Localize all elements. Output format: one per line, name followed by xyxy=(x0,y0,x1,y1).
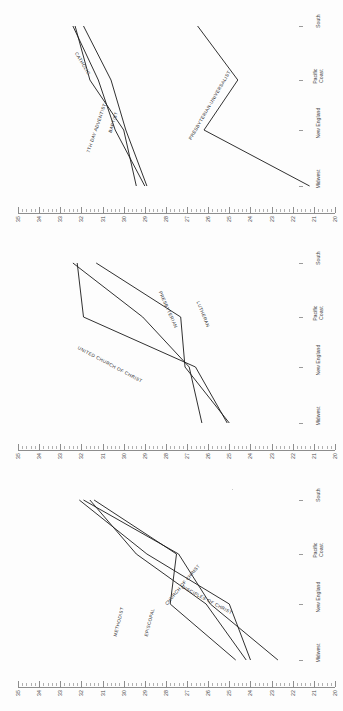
axis-tick-label: 31 xyxy=(100,216,106,222)
category-tick xyxy=(299,186,303,187)
axis-minor-tick xyxy=(52,446,53,449)
axis-tick xyxy=(208,444,209,450)
axis-minor-tick xyxy=(284,446,285,449)
axis-minor-tick xyxy=(289,209,290,212)
axis-minor-tick xyxy=(157,683,158,686)
axis-minor-tick xyxy=(119,209,120,212)
axis-minor-tick xyxy=(111,683,112,686)
series-line-7th-day-adventist xyxy=(73,26,145,186)
category-tick xyxy=(299,317,303,318)
category-tick xyxy=(299,604,303,605)
axis-minor-tick xyxy=(191,209,192,212)
axis-minor-tick xyxy=(200,683,201,686)
axis-minor-tick xyxy=(31,209,32,212)
panel-3-plot-area: METHODIST EPISCOPAL CHURCH OF CHRIST DIS… xyxy=(0,474,343,711)
axis-tick-label: 33 xyxy=(57,453,63,459)
panel-2-value-axis: 35343332313029282726252423222120 xyxy=(0,440,343,474)
axis-tick-label: 22 xyxy=(290,690,296,696)
axis-tick xyxy=(145,444,146,450)
axis-minor-tick xyxy=(73,683,74,686)
panel-2-category-axis: Midwest New England Pacific Coast South xyxy=(299,237,343,440)
category-tick xyxy=(299,660,303,661)
axis-minor-tick xyxy=(111,209,112,212)
axis-minor-tick xyxy=(217,683,218,686)
axis-minor-tick xyxy=(90,683,91,686)
axis-minor-tick xyxy=(136,446,137,449)
axis-tick xyxy=(293,681,294,687)
axis-tick xyxy=(166,681,167,687)
axis-minor-tick xyxy=(331,209,332,212)
axis-minor-tick xyxy=(149,683,150,686)
axis-minor-tick xyxy=(77,446,78,449)
axis-tick xyxy=(208,207,209,213)
axis-minor-tick xyxy=(301,209,302,212)
axis-minor-tick xyxy=(246,683,247,686)
category-tick xyxy=(299,263,303,264)
axis-minor-tick xyxy=(119,683,120,686)
axis-minor-tick xyxy=(90,446,91,449)
axis-minor-tick xyxy=(284,683,285,686)
axis-minor-tick xyxy=(94,209,95,212)
axis-tick-label: 26 xyxy=(205,690,211,696)
axis-minor-tick xyxy=(204,446,205,449)
axis-minor-tick xyxy=(162,209,163,212)
axis-minor-tick xyxy=(327,446,328,449)
axis-minor-tick xyxy=(128,683,129,686)
axis-tick xyxy=(39,444,40,450)
category-label-new-england: New England xyxy=(315,574,321,620)
axis-minor-tick xyxy=(310,446,311,449)
axis-tick-label: 35 xyxy=(15,690,21,696)
axis-minor-tick xyxy=(153,446,154,449)
axis-tick xyxy=(272,207,273,213)
axis-minor-tick xyxy=(119,446,120,449)
axis-minor-tick xyxy=(212,683,213,686)
axis-minor-tick xyxy=(238,683,239,686)
axis-tick-label: 26 xyxy=(205,216,211,222)
axis-minor-tick xyxy=(153,683,154,686)
axis-tick-label: 33 xyxy=(57,690,63,696)
axis-minor-tick xyxy=(310,209,311,212)
axis-minor-tick xyxy=(267,446,268,449)
axis-minor-tick xyxy=(43,209,44,212)
category-tick xyxy=(299,80,303,81)
axis-tick xyxy=(250,207,251,213)
series-line-baptist xyxy=(84,26,147,186)
axis-tick-label: 27 xyxy=(184,216,190,222)
axis-minor-tick xyxy=(69,209,70,212)
axis-minor-tick xyxy=(297,446,298,449)
category-tick xyxy=(299,26,303,27)
axis-minor-tick xyxy=(183,209,184,212)
axis-minor-tick xyxy=(225,209,226,212)
axis-tick xyxy=(124,207,125,213)
axis-tick xyxy=(60,207,61,213)
axis-minor-tick xyxy=(98,209,99,212)
axis-tick-label: 34 xyxy=(36,690,42,696)
axis-minor-tick xyxy=(52,209,53,212)
axis-minor-tick xyxy=(64,446,65,449)
axis-minor-tick xyxy=(246,446,247,449)
axis-minor-tick xyxy=(86,683,87,686)
axis-minor-tick xyxy=(221,683,222,686)
axis-minor-tick xyxy=(331,683,332,686)
category-label-south: South xyxy=(315,0,321,44)
axis-minor-tick xyxy=(153,209,154,212)
axis-tick xyxy=(293,444,294,450)
axis-minor-tick xyxy=(136,683,137,686)
panel-3-value-axis: 35343332313029282726252423222120 xyxy=(0,677,343,711)
axis-tick xyxy=(187,444,188,450)
category-label-new-england: New England xyxy=(315,337,321,383)
axis-minor-tick xyxy=(196,209,197,212)
axis-minor-tick xyxy=(174,209,175,212)
axis-tick xyxy=(335,681,336,687)
axis-minor-tick xyxy=(183,683,184,686)
category-tick xyxy=(299,554,303,555)
axis-tick xyxy=(145,681,146,687)
series-line-presbyterian-universalist xyxy=(198,26,310,186)
axis-tick-label: 30 xyxy=(121,690,127,696)
axis-minor-tick xyxy=(234,683,235,686)
axis-minor-tick xyxy=(77,209,78,212)
series-line-church-of-christ xyxy=(79,500,250,660)
axis-minor-tick xyxy=(64,683,65,686)
axis-tick-label: 20 xyxy=(332,216,338,222)
axis-minor-tick xyxy=(305,446,306,449)
